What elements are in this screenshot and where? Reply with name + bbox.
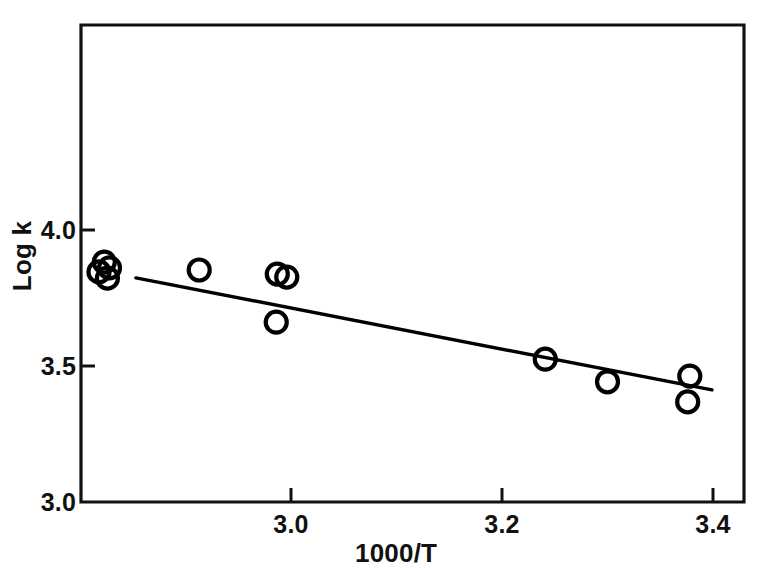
data-point-marker [266,312,287,333]
scatter-markers-group [88,252,700,413]
y-tick-label-3-5: 3.5 [26,354,76,379]
x-tick-label-3-4: 3.4 [683,512,743,537]
data-point-marker [677,391,698,412]
data-point-marker [597,371,618,392]
plot-canvas [0,0,761,569]
y-axis-title: Log k [9,211,35,301]
arrhenius-plot-figure: 4.0 3.5 3.0 3.0 3.2 3.4 1000/T Log k [0,0,761,569]
data-point-marker [679,366,700,387]
y-tick-label-3-0: 3.0 [26,490,76,515]
tick-marks-group [81,230,713,502]
x-tick-label-3-0: 3.0 [261,512,321,537]
data-point-marker [189,259,210,280]
least-squares-trend-line [136,278,712,390]
x-axis-title: 1000/T [355,540,437,566]
trend-line-group [136,278,712,390]
axes-frame-outline [81,25,744,502]
x-tick-label-3-2: 3.2 [472,512,532,537]
plot-frame [81,25,744,502]
